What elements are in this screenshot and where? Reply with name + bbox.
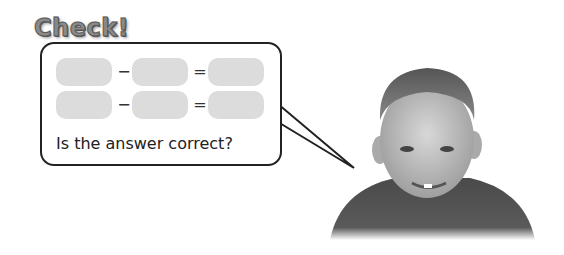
boy-photo <box>0 0 564 255</box>
